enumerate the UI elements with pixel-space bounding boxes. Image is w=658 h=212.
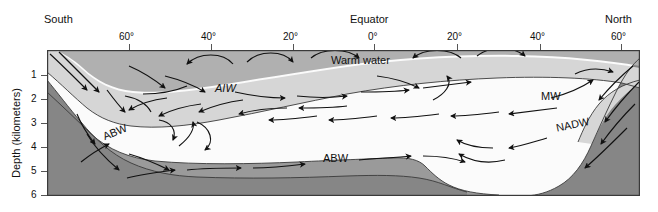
tick-label-60s: 60°: [119, 32, 134, 42]
tick-label-40n: 40°: [530, 32, 545, 42]
depth-tick-label-3: 3: [31, 118, 37, 128]
tick-label-0: 0°: [368, 32, 378, 42]
water-mass-label-mw: MW: [541, 90, 561, 102]
water-mass-label-warm-water: Warm water: [331, 54, 390, 66]
tick-label-40s: 40°: [201, 32, 216, 42]
tick-label-20n: 20°: [447, 32, 462, 42]
depth-tick-label-1: 1: [31, 70, 37, 80]
water-mass-label-aiw: AIW: [215, 82, 236, 94]
cross-section-panel: Warm water AIW MW NADW ABW ABW: [47, 50, 640, 196]
orientation-label-north: North: [605, 14, 632, 25]
depth-tick-label-5: 5: [31, 166, 37, 176]
figure-root: South Equator North 60° 40° 20° 0° 20° 4…: [0, 0, 658, 212]
cross-section-svg: [47, 50, 640, 196]
tick-label-60n: 60°: [611, 32, 626, 42]
depth-tick-label-2: 2: [31, 94, 37, 104]
depth-tick-label-6: 6: [31, 190, 37, 200]
depth-axis-title: Depth (kilometers): [10, 88, 22, 178]
water-mass-label-abw-equator: ABW: [323, 152, 348, 164]
depth-tick-label-4: 4: [31, 142, 37, 152]
orientation-label-south: South: [44, 14, 73, 25]
orientation-label-equator: Equator: [350, 14, 389, 25]
tick-label-20s: 20°: [283, 32, 298, 42]
